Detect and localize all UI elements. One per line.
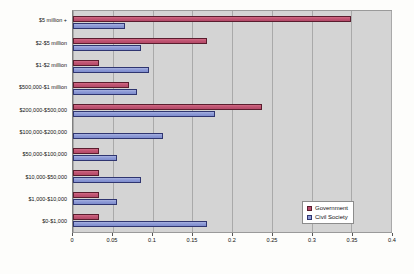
bar-group xyxy=(73,99,391,121)
category-label: $2-$5 million xyxy=(0,32,70,54)
category-label: $100,000-$200,000 xyxy=(0,121,70,143)
chart-legend: GovernmentCivil Society xyxy=(302,201,354,224)
legend-swatch-icon xyxy=(307,215,312,220)
category-label: $50,000-$100,000 xyxy=(0,144,70,166)
category-label: $200,000-$500,000 xyxy=(0,99,70,121)
tick-mark xyxy=(312,233,313,236)
tick-mark xyxy=(192,233,193,236)
tick-mark xyxy=(112,233,113,236)
bar-civil-society xyxy=(73,89,137,95)
bar-group xyxy=(73,144,391,166)
category-label: $10,000-$50,000 xyxy=(0,166,70,188)
bar-government xyxy=(73,148,99,154)
tick-label: 0 xyxy=(70,237,73,243)
tick-label: 0.25 xyxy=(267,237,278,243)
bar-group xyxy=(73,166,391,188)
tick-mark xyxy=(392,233,393,236)
bar-civil-society xyxy=(73,155,117,161)
category-label: $1,000-$10,000 xyxy=(0,188,70,210)
plot-area xyxy=(72,10,392,233)
bar-government xyxy=(73,192,99,198)
bar-government xyxy=(73,82,129,88)
tick-label: 0.2 xyxy=(228,237,236,243)
category-axis: $5 million +$2-$5 million$1-$2 million$5… xyxy=(0,10,70,233)
bar-government xyxy=(73,38,207,44)
bar-group xyxy=(73,11,391,33)
value-axis: 00.050.10.150.20.250.30.350.4 xyxy=(72,233,392,253)
category-label: $5 million + xyxy=(0,10,70,32)
legend-label: Government xyxy=(315,205,348,211)
tick-label: 0.3 xyxy=(308,237,316,243)
tick-mark xyxy=(232,233,233,236)
category-label: $0-$1,000 xyxy=(0,211,70,233)
bar-government xyxy=(73,214,99,220)
tick-mark xyxy=(352,233,353,236)
tick-mark xyxy=(72,233,73,236)
tick-label: 0.1 xyxy=(148,237,156,243)
bars-layer xyxy=(73,11,391,232)
bar-civil-society xyxy=(73,221,207,227)
legend-entry: Government xyxy=(307,205,348,211)
bar-government xyxy=(73,60,99,66)
bar-group xyxy=(73,121,391,143)
bar-chart: $5 million +$2-$5 million$1-$2 million$5… xyxy=(0,0,414,274)
bar-group xyxy=(73,33,391,55)
tick-label: 0.35 xyxy=(347,237,358,243)
category-label: $500,000-$1 million xyxy=(0,77,70,99)
tick-label: 0.15 xyxy=(187,237,198,243)
bar-government xyxy=(73,170,99,176)
bar-group xyxy=(73,77,391,99)
bar-civil-society xyxy=(73,199,117,205)
tick-mark xyxy=(272,233,273,236)
legend-label: Civil Society xyxy=(315,214,348,220)
bar-civil-society xyxy=(73,23,125,29)
gridline xyxy=(391,11,392,232)
bar-government xyxy=(73,16,351,22)
bar-government xyxy=(73,104,262,110)
category-label: $1-$2 million xyxy=(0,55,70,77)
bar-group xyxy=(73,55,391,77)
bar-civil-society xyxy=(73,177,141,183)
legend-entry: Civil Society xyxy=(307,214,348,220)
bar-civil-society xyxy=(73,45,141,51)
bar-civil-society xyxy=(73,67,149,73)
tick-label: 0.05 xyxy=(107,237,118,243)
tick-mark xyxy=(152,233,153,236)
legend-swatch-icon xyxy=(307,206,312,211)
tick-label: 0.4 xyxy=(388,237,396,243)
bar-civil-society xyxy=(73,133,163,139)
bar-civil-society xyxy=(73,111,215,117)
